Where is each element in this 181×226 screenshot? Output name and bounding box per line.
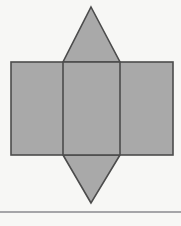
geometric-net-figure: Geometric net diagram A horizontal recta… — [0, 0, 181, 226]
figure-canvas: Geometric net diagram A horizontal recta… — [0, 0, 181, 226]
main-rectangle — [11, 62, 173, 155]
